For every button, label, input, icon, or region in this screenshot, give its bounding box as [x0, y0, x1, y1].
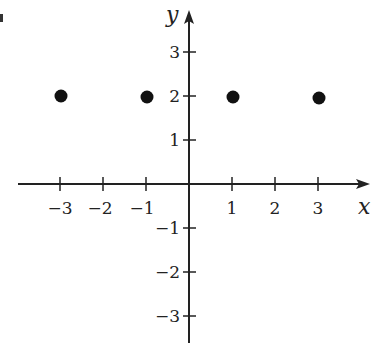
- y-tick-label: 2: [169, 86, 180, 106]
- data-point: [55, 90, 68, 103]
- data-point: [313, 92, 326, 105]
- y-tick-label: −1: [155, 218, 180, 238]
- x-tick-label: 3: [313, 198, 324, 218]
- x-tick-label: 2: [270, 198, 281, 218]
- y-tick-label: −3: [155, 306, 180, 326]
- x-axis-label: x: [358, 194, 371, 219]
- x-tick-label: 1: [227, 198, 238, 218]
- coordinate-plane: −3 −2 −1 1 2 3 3 2 1 −1 −2 −3 x y: [0, 0, 379, 343]
- data-point: [227, 91, 240, 104]
- x-tick-label: −3: [47, 198, 72, 218]
- y-tick-label: 3: [169, 42, 180, 62]
- y-tick-label: −2: [155, 262, 180, 282]
- x-tick-label: −2: [87, 198, 112, 218]
- data-point: [141, 91, 154, 104]
- x-tick-label: −1: [129, 198, 154, 218]
- y-axis-label: y: [165, 2, 179, 27]
- y-tick-label: 1: [169, 130, 180, 150]
- stray-mark: [0, 14, 3, 22]
